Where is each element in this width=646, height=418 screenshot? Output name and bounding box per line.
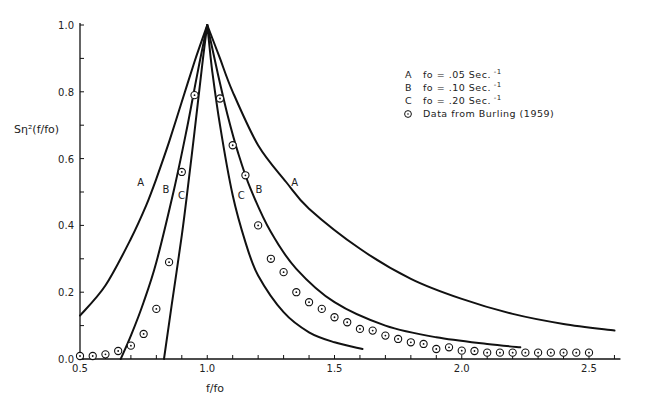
legend-label: Data from Burling (1959): [423, 108, 554, 119]
data-point: [318, 305, 325, 312]
data-point: [344, 319, 351, 326]
curve-label-c: C: [178, 190, 185, 201]
data-point: [484, 349, 491, 356]
data-point: [445, 344, 452, 351]
y-tick-label: 0.8: [58, 87, 74, 98]
x-tick-label: 1.0: [199, 363, 215, 374]
x-tick-label: 2.5: [581, 363, 597, 374]
data-point: [242, 172, 249, 179]
data-point: [509, 349, 516, 356]
data-point: [382, 332, 389, 339]
curve-labels: AABBCC: [137, 177, 298, 201]
data-point: [573, 349, 580, 356]
y-tick-label: 0.0: [58, 354, 74, 365]
data-point: [522, 349, 529, 356]
data-point: [165, 259, 172, 266]
data-point: [140, 330, 147, 337]
data-point: [395, 335, 402, 342]
x-tick-label: 1.5: [327, 363, 343, 374]
x-tick-label: 2.0: [454, 363, 470, 374]
data-point: [433, 345, 440, 352]
data-point: [305, 299, 312, 306]
curve-label-a: A: [291, 177, 298, 188]
axes: [80, 23, 620, 359]
data-point: [127, 342, 134, 349]
data-point: [356, 325, 363, 332]
data-point: [293, 289, 300, 296]
curve-c: [164, 25, 363, 359]
data-point: [153, 305, 160, 312]
curve-label-b: B: [163, 184, 170, 195]
y-tick-label: 0.6: [58, 154, 74, 165]
legend-key: B: [405, 82, 412, 93]
data-point: [102, 351, 109, 358]
y-tick-label: 0.2: [58, 287, 74, 298]
y-axis-title: Sη²(f/fo): [14, 123, 59, 136]
data-points: [76, 92, 592, 360]
data-point: [76, 352, 83, 359]
data-point: [267, 255, 274, 262]
x-axis-ticks: 0.51.01.52.02.5: [72, 355, 614, 374]
legend-item: Data from Burling (1959): [405, 108, 555, 119]
data-point: [420, 340, 427, 347]
data-point: [560, 349, 567, 356]
data-point: [178, 168, 185, 175]
legend-label: fo = .20 Sec. -1: [423, 94, 502, 106]
data-point: [535, 349, 542, 356]
curve-a: [80, 25, 615, 331]
curve-label-a: A: [137, 177, 144, 188]
data-point: [229, 142, 236, 149]
data-point: [255, 222, 262, 229]
data-point: [407, 339, 414, 346]
y-tick-label: 0.4: [58, 220, 74, 231]
data-point: [191, 92, 198, 99]
data-point: [471, 347, 478, 354]
data-point: [547, 349, 554, 356]
data-point: [496, 349, 503, 356]
legend-key: A: [405, 69, 412, 80]
data-point: [585, 349, 592, 356]
legend-key: C: [405, 95, 412, 106]
data-point: [280, 269, 287, 276]
data-point: [331, 314, 338, 321]
curve-label-c: C: [238, 190, 245, 201]
legend: Afo = .05 Sec. -1Bfo = .10 Sec. -1Cfo = …: [405, 68, 555, 119]
legend-label: fo = .10 Sec. -1: [423, 81, 502, 93]
x-tick-label: 0.5: [72, 363, 88, 374]
spectrum-chart: 0.51.01.52.02.5 0.00.20.40.60.81.0 AABBC…: [0, 0, 646, 418]
data-point: [458, 347, 465, 354]
x-axis-title: f/fo: [206, 382, 224, 395]
curve-label-b: B: [256, 184, 263, 195]
legend-item: Bfo = .10 Sec. -1: [405, 81, 502, 93]
data-point: [89, 352, 96, 359]
legend-label: fo = .05 Sec. -1: [423, 68, 502, 80]
legend-item: Afo = .05 Sec. -1: [405, 68, 502, 80]
data-point: [216, 95, 223, 102]
y-tick-label: 1.0: [58, 20, 74, 31]
data-point: [115, 347, 122, 354]
data-point: [369, 327, 376, 334]
legend-item: Cfo = .20 Sec. -1: [405, 94, 502, 106]
